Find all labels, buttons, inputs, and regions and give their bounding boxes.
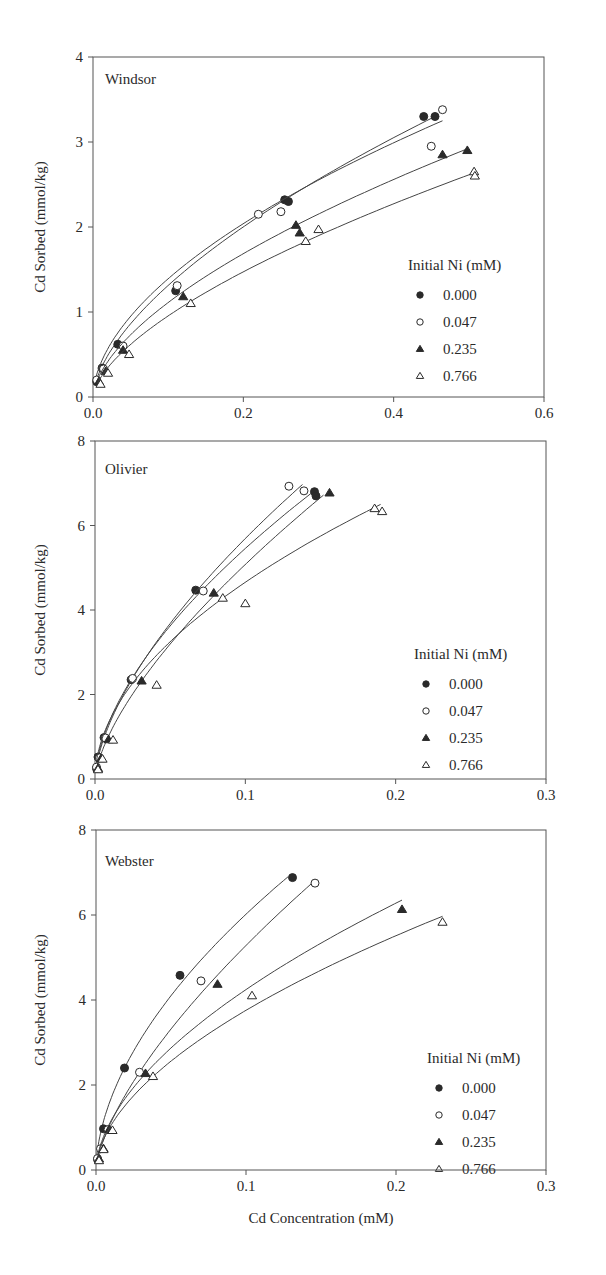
filled-circle-marker — [431, 113, 439, 121]
figure-canvas: Windsor Cd Sorbed (mmol/kg) Initial Ni (… — [0, 0, 606, 1275]
panel-olivier: Olivier Cd Sorbed (mmol/kg) Initial Ni (… — [32, 433, 555, 803]
filled-circle-marker — [420, 113, 428, 121]
filled-triangle-marker — [438, 150, 447, 158]
series-0.000 — [94, 874, 297, 1164]
y-tick-label: 8 — [79, 822, 87, 838]
y-tick-label: 8 — [78, 433, 86, 449]
x-tick-label: 0.0 — [87, 1178, 106, 1194]
y-tick-label: 4 — [79, 992, 87, 1008]
y-tick-label: 6 — [78, 518, 86, 534]
legend-label: 0.047 — [443, 314, 477, 330]
series-0.047 — [93, 482, 308, 771]
open-triangle-marker — [247, 991, 256, 999]
open-triangle-marker — [370, 504, 379, 512]
filled-triangle-marker — [295, 228, 304, 236]
legend-label: 0.047 — [462, 1107, 496, 1123]
fit-curve — [96, 485, 303, 770]
fit-curve — [95, 121, 442, 380]
open-triangle-marker — [438, 918, 447, 926]
open-triangle-marker — [152, 681, 161, 689]
legend-item: 0.047 — [436, 1107, 496, 1123]
legend-label: 0.000 — [443, 287, 477, 303]
y-tick-label: 0 — [78, 771, 86, 787]
panel-title: Windsor — [105, 71, 156, 87]
legend-label: 0.235 — [462, 1134, 496, 1150]
y-axis-label: Cd Sorbed (mmol/kg) — [32, 161, 49, 293]
open-triangle-marker — [422, 761, 429, 767]
series-0.235 — [94, 900, 406, 1162]
x-tick-label: 0.6 — [535, 405, 554, 421]
legend-label: 0.766 — [462, 1161, 496, 1177]
filled-triangle-marker — [416, 345, 423, 351]
open-circle-marker — [311, 879, 319, 887]
legend-title: Initial Ni (mM) — [414, 646, 507, 663]
filled-circle-marker — [192, 586, 200, 594]
y-tick-label: 4 — [78, 602, 86, 618]
open-circle-marker — [254, 210, 262, 218]
open-circle-marker — [417, 319, 423, 325]
series-0.047 — [94, 879, 320, 1163]
series-0.047 — [93, 106, 447, 384]
filled-triangle-marker — [213, 980, 222, 988]
fit-curve — [96, 490, 316, 768]
fit-curve — [97, 495, 324, 768]
legend-item: 0.766 — [435, 1161, 496, 1177]
open-circle-marker — [427, 142, 435, 150]
filled-triangle-marker — [422, 734, 429, 740]
y-axis-label: Cd Sorbed (mmol/kg) — [32, 544, 49, 676]
legend-label: 0.766 — [443, 368, 477, 384]
open-circle-marker — [197, 977, 205, 985]
series-0.000 — [93, 488, 320, 773]
x-tick-label: 0.1 — [236, 787, 255, 803]
legend: Initial Ni (mM)0.0000.0470.2350.766 — [427, 1050, 520, 1177]
legend: Initial Ni (mM)0.0000.0470.2350.766 — [414, 646, 507, 773]
open-circle-marker — [277, 208, 285, 216]
legend-item: 0.000 — [423, 676, 483, 692]
legend-item: 0.000 — [436, 1080, 496, 1096]
x-tick-label: 0.2 — [234, 405, 253, 421]
filled-circle-marker — [289, 874, 297, 882]
legend-label: 0.000 — [462, 1080, 496, 1096]
filled-circle-marker — [121, 1064, 129, 1072]
legend-item: 0.047 — [417, 314, 477, 330]
filled-triangle-marker — [435, 1138, 442, 1144]
filled-triangle-marker — [325, 488, 334, 496]
sorption-isotherm-figure: Windsor Cd Sorbed (mmol/kg) Initial Ni (… — [0, 0, 606, 1275]
filled-circle-marker — [423, 681, 429, 687]
y-axis-label: Cd Sorbed (mmol/kg) — [32, 934, 49, 1066]
plot-frame — [95, 441, 546, 779]
legend-title: Initial Ni (mM) — [408, 257, 501, 274]
open-triangle-marker — [301, 237, 310, 245]
open-circle-marker — [439, 106, 447, 114]
panel-title: Olivier — [105, 461, 148, 477]
y-tick-label: 0 — [79, 1162, 87, 1178]
x-axis-ticks: 0.00.10.20.3 — [86, 779, 556, 803]
x-tick-label: 0.3 — [537, 1178, 556, 1194]
legend-label: 0.766 — [449, 757, 483, 773]
x-tick-label: 0.0 — [86, 787, 105, 803]
series-0.235 — [93, 488, 334, 771]
open-circle-marker — [173, 282, 181, 290]
x-tick-label: 0.0 — [84, 405, 103, 421]
open-circle-marker — [423, 708, 429, 714]
filled-triangle-marker — [137, 676, 146, 684]
legend-item: 0.235 — [416, 341, 476, 357]
fit-curve — [97, 883, 312, 1163]
filled-triangle-marker — [291, 221, 300, 229]
legend-item: 0.235 — [422, 730, 482, 746]
y-tick-label: 2 — [76, 219, 84, 235]
legend-item: 0.047 — [423, 703, 483, 719]
open-circle-marker — [285, 482, 293, 490]
fit-curve — [97, 504, 381, 759]
x-tick-label: 0.3 — [537, 787, 556, 803]
legend-item: 0.235 — [435, 1134, 495, 1150]
filled-circle-marker — [176, 971, 184, 979]
open-triangle-marker — [416, 372, 423, 378]
legend-label: 0.000 — [449, 676, 483, 692]
y-axis-ticks: 02468 — [78, 433, 96, 787]
series-0.000 — [93, 113, 439, 386]
y-tick-label: 1 — [76, 304, 84, 320]
x-tick-label: 0.1 — [237, 1178, 256, 1194]
open-triangle-marker — [241, 599, 250, 607]
y-tick-label: 3 — [76, 134, 84, 150]
